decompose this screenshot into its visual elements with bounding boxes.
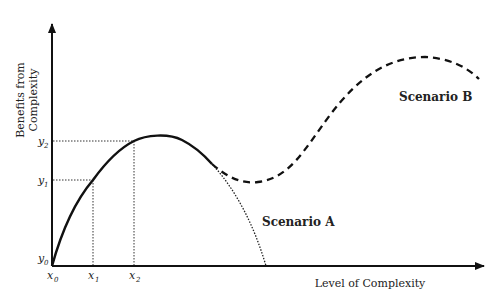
y-tick-y0-sub: 0 xyxy=(44,259,49,267)
x-tick-x1-base: x xyxy=(88,269,95,282)
x-tick-x0-sub: 0 xyxy=(54,276,59,284)
y-tick-y2: y 2 xyxy=(37,135,49,150)
y-axis-title-line1: Benefits from xyxy=(14,62,27,138)
scenario-a-label: Scenario A xyxy=(262,215,335,229)
main-benefit-curve xyxy=(52,136,212,266)
scenario-b-curve xyxy=(212,57,479,182)
y-tick-y1-sub: 1 xyxy=(44,181,48,189)
y-tick-y2-sub: 2 xyxy=(43,142,49,150)
y-tick-y1: y 1 xyxy=(37,174,48,189)
y-axis-title-line2: Complexity xyxy=(27,68,40,132)
x-axis-title: Level of Complexity xyxy=(315,277,426,290)
x-tick-x1-sub: 1 xyxy=(95,276,99,284)
y-axis-title: Benefits from Complexity xyxy=(14,62,40,138)
x-tick-x2: x 2 xyxy=(129,269,141,284)
x-tick-x2-base: x xyxy=(129,269,136,282)
scenario-a-curve xyxy=(212,164,266,266)
diagram-canvas: Benefits from Complexity Level of Comple… xyxy=(0,0,496,295)
x-tick-x1: x 1 xyxy=(88,269,99,284)
x-tick-x2-sub: 2 xyxy=(135,276,141,284)
scenario-b-label: Scenario B xyxy=(399,90,472,104)
x-tick-x0-base: x xyxy=(47,269,54,282)
x-tick-x0: x 0 xyxy=(47,269,59,284)
y-tick-y0: y 0 xyxy=(37,252,49,267)
